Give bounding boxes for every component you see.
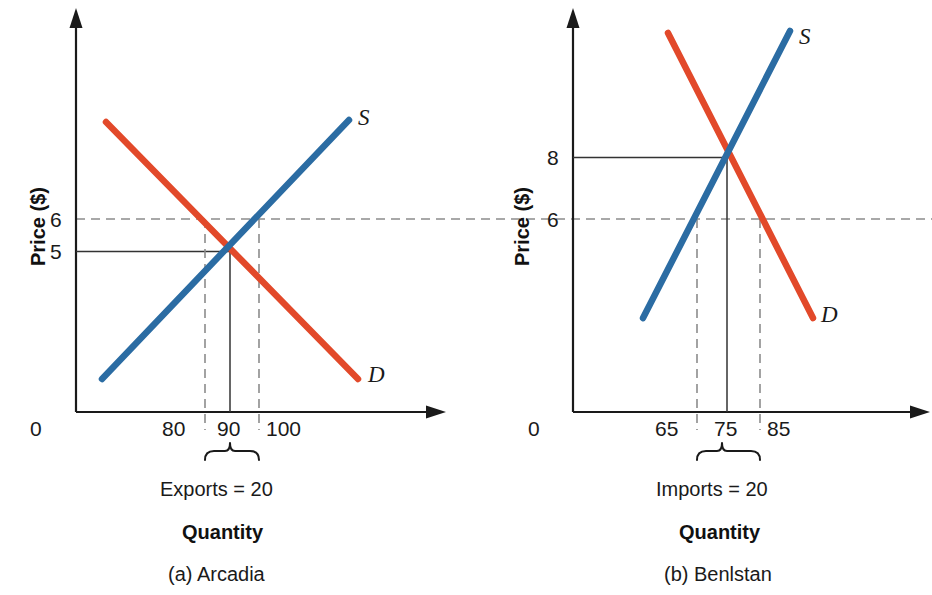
benlstan-x-tick-85: 85 bbox=[767, 418, 790, 439]
arcadia-demand-curve-label: D bbox=[368, 363, 385, 386]
figure-root: Price ($) 6 5 0 80 90 100 S D Exports = … bbox=[0, 0, 932, 595]
benlstan-y-axis-arrowhead bbox=[567, 8, 580, 28]
arcadia-y-axis-arrowhead bbox=[70, 8, 83, 28]
arcadia-x-tick-90: 90 bbox=[217, 418, 240, 439]
benlstan-origin-label: 0 bbox=[528, 418, 540, 439]
figure-canvas bbox=[0, 0, 932, 595]
benlstan-supply-curve-label: S bbox=[799, 25, 811, 48]
arcadia-x-axis-arrowhead bbox=[426, 406, 446, 419]
arcadia-x-axis-title: Quantity bbox=[182, 522, 263, 542]
benlstan-x-tick-75: 75 bbox=[714, 418, 737, 439]
benlstan-imports-brace-label: Imports = 20 bbox=[656, 479, 768, 499]
arcadia-x-tick-80: 80 bbox=[162, 418, 185, 439]
panel-arcadia-graph bbox=[70, 8, 932, 460]
benlstan-panel-caption: (b) Benlstan bbox=[664, 564, 772, 584]
benlstan-x-tick-65: 65 bbox=[655, 418, 678, 439]
benlstan-supply-curve bbox=[643, 31, 790, 318]
arcadia-y-axis-title: Price ($) bbox=[28, 187, 48, 266]
panel-benlstan-graph bbox=[567, 8, 931, 460]
benlstan-y-tick-8: 8 bbox=[547, 147, 559, 168]
benlstan-demand-curve bbox=[668, 33, 813, 318]
benlstan-imports-brace bbox=[697, 443, 760, 460]
arcadia-exports-brace-label: Exports = 20 bbox=[160, 479, 273, 499]
arcadia-panel-caption: (a) Arcadia bbox=[168, 564, 265, 584]
benlstan-demand-curve-label: D bbox=[821, 303, 838, 326]
arcadia-x-tick-100: 100 bbox=[266, 418, 301, 439]
benlstan-y-axis-title: Price ($) bbox=[512, 187, 532, 266]
arcadia-demand-curve bbox=[106, 122, 358, 379]
arcadia-exports-brace bbox=[205, 443, 259, 460]
arcadia-origin-label: 0 bbox=[30, 418, 42, 439]
benlstan-x-axis-title: Quantity bbox=[679, 522, 760, 542]
benlstan-x-axis-arrowhead bbox=[910, 406, 930, 419]
arcadia-y-tick-6: 6 bbox=[50, 209, 62, 230]
arcadia-supply-curve-label: S bbox=[358, 106, 370, 129]
benlstan-y-tick-6: 6 bbox=[547, 209, 559, 230]
arcadia-y-tick-5: 5 bbox=[50, 241, 62, 262]
